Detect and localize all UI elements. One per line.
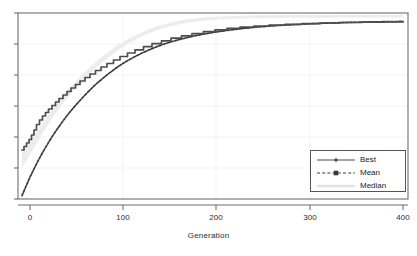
- x-tick-label-300: 300: [303, 213, 317, 222]
- series-median-band: [22, 15, 403, 168]
- chart-legend: Best Mean Median: [310, 150, 406, 192]
- fitness-convergence-chart: 0 100 200 300 400 Generation Best Mean: [0, 0, 417, 256]
- x-tick-label-100: 100: [116, 213, 130, 222]
- legend-key-solid-line-point-marker: [315, 154, 357, 166]
- legend-label-median: Median: [360, 181, 386, 190]
- legend-label-best: Best: [360, 155, 376, 164]
- y-axis-ticks: [14, 13, 18, 199]
- legend-item-mean[interactable]: Mean: [311, 166, 407, 179]
- x-axis: [18, 205, 408, 210]
- x-axis-title: Generation: [0, 231, 417, 240]
- legend-key-light-band-swatch: [315, 180, 357, 192]
- legend-label-mean: Mean: [360, 168, 380, 177]
- legend-item-median[interactable]: Median: [311, 179, 407, 192]
- x-tick-label-400: 400: [396, 213, 410, 222]
- legend-key-dashed-line-square-marker: [315, 167, 357, 179]
- x-tick-label-200: 200: [209, 213, 223, 222]
- series-best-line: [22, 22, 403, 150]
- legend-item-best[interactable]: Best: [311, 153, 407, 166]
- x-tick-label-0: 0: [28, 213, 33, 222]
